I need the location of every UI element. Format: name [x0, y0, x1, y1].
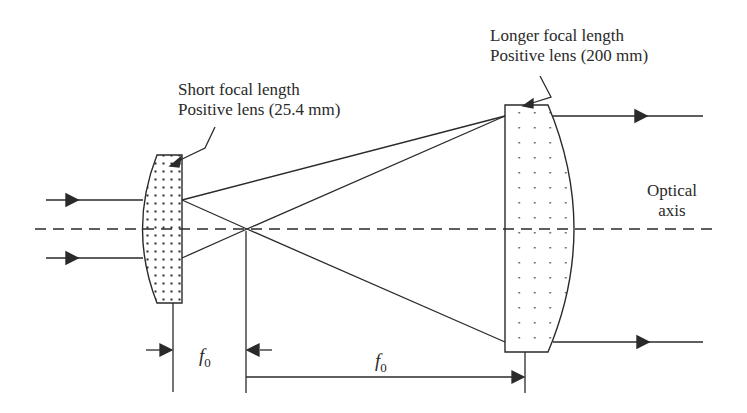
optical-axis-label: Optical axis	[634, 181, 710, 221]
long-lens-label-line1: Longer focal length	[490, 26, 648, 46]
short-lens-label-line2: Positive lens (25.4 mm)	[178, 100, 340, 120]
arrow-icon	[247, 344, 259, 356]
optical-axis-label-line2: axis	[634, 201, 710, 221]
long-focal-lens	[505, 105, 574, 352]
short-focal-lens	[143, 155, 183, 303]
arrow-icon	[637, 336, 649, 348]
focal-length-long-label: f0	[375, 350, 387, 376]
short-lens-label: Short focal length Positive lens (25.4 m…	[178, 80, 340, 120]
long-lens-label-line2: Positive lens (200 mm)	[490, 46, 648, 66]
optical-axis-label-line1: Optical	[634, 181, 710, 201]
arrow-icon	[66, 252, 78, 264]
arrow-icon	[66, 194, 78, 206]
long-lens-label: Longer focal length Positive lens (200 m…	[490, 26, 648, 66]
arrow-icon	[512, 371, 524, 383]
arrow-icon	[160, 344, 172, 356]
arrow-icon	[635, 110, 647, 122]
focal-length-short-label: f0	[199, 345, 211, 371]
short-lens-label-line1: Short focal length	[178, 80, 340, 100]
